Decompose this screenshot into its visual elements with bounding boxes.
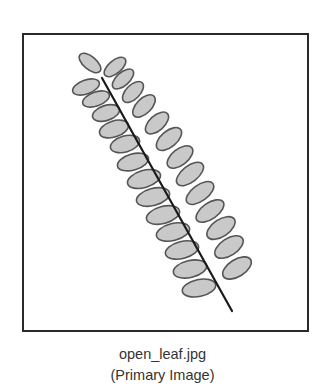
fern-leaf-illustration bbox=[0, 0, 325, 392]
image-filename-caption: open_leaf.jpg bbox=[0, 345, 325, 364]
leaflet-left-1 bbox=[76, 50, 104, 77]
image-subtitle-caption: (Primary Image) bbox=[0, 366, 325, 385]
leaflet-left-14 bbox=[181, 276, 218, 300]
